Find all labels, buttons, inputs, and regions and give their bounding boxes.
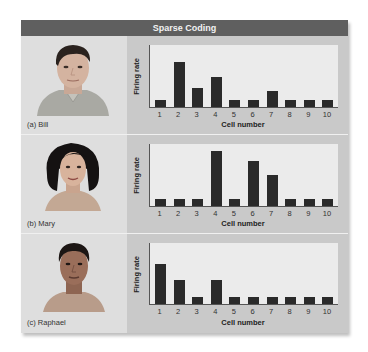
x-tick-label: 9 [300, 110, 316, 119]
bar-cell-8 [285, 100, 296, 107]
y-axis-label: Firing rate [132, 245, 141, 305]
x-tick-label: 8 [282, 209, 298, 218]
bar-cell-1 [155, 199, 166, 206]
caption-mary: (b) Mary [27, 219, 55, 228]
caption-bill: (a) Bill [27, 120, 48, 129]
y-axis-label: Firing rate [132, 47, 141, 107]
bar-plot-bill [149, 45, 338, 108]
bar-cell-10 [322, 100, 333, 107]
figure-title: Sparse Coding [21, 20, 348, 36]
bar-cell-6 [248, 297, 259, 304]
bar-cell-4 [211, 151, 222, 206]
bar-cell-1 [155, 264, 166, 304]
bar-cell-9 [304, 297, 315, 304]
face-panel-mary: (b) Mary [21, 135, 127, 233]
bar-plot-mary [149, 144, 338, 207]
face-bill-icon [33, 40, 113, 118]
bar-cell-7 [267, 91, 278, 107]
bar-cell-6 [248, 100, 259, 107]
x-tick-label: 4 [207, 209, 223, 218]
x-axis-label: Cell number [149, 219, 337, 228]
x-tick-label: 6 [245, 209, 261, 218]
bar-cell-7 [267, 297, 278, 304]
x-tick-label: 10 [319, 209, 335, 218]
x-tick-label: 1 [152, 110, 168, 119]
x-tick-label: 7 [263, 209, 279, 218]
x-tick-label: 10 [319, 307, 335, 316]
face-mary-icon [37, 139, 109, 213]
bar-cell-4 [211, 77, 222, 107]
face-raphael-icon [39, 236, 109, 314]
bar-cell-2 [174, 199, 185, 206]
bar-cell-4 [211, 280, 222, 304]
x-tick-label: 2 [170, 307, 186, 316]
x-tick-label: 5 [226, 110, 242, 119]
chart-panel-mary: Firing rate 12345678910 Cell number [127, 135, 348, 233]
bar-cell-8 [285, 297, 296, 304]
x-tick-label: 1 [152, 307, 168, 316]
bar-cell-7 [267, 175, 278, 206]
bar-cell-10 [322, 199, 333, 206]
x-tick-label: 4 [207, 110, 223, 119]
row-bill: (a) Bill Firing rate 12345678910 Cell nu… [21, 36, 348, 134]
x-tick-label: 8 [282, 307, 298, 316]
bar-cell-3 [192, 88, 203, 107]
x-tick-label: 7 [263, 110, 279, 119]
face-panel-bill: (a) Bill [21, 36, 127, 134]
x-tick-label: 8 [282, 110, 298, 119]
bar-cell-3 [192, 199, 203, 206]
bar-cell-2 [174, 62, 185, 107]
bar-cell-2 [174, 280, 185, 304]
x-tick-label: 4 [207, 307, 223, 316]
bar-cell-1 [155, 100, 166, 107]
x-axis-label: Cell number [149, 120, 337, 129]
bar-cell-8 [285, 199, 296, 206]
x-tick-label: 9 [300, 209, 316, 218]
y-axis-label: Firing rate [132, 146, 141, 206]
bar-cell-5 [229, 199, 240, 206]
sparse-coding-figure: Sparse Coding (a) Bill Firing rate 12345… [21, 20, 348, 333]
bar-cell-5 [229, 297, 240, 304]
x-tick-label: 6 [245, 110, 261, 119]
x-tick-label: 5 [226, 307, 242, 316]
bar-cell-3 [192, 297, 203, 304]
row-mary: (b) Mary Firing rate 12345678910 Cell nu… [21, 135, 348, 233]
bar-cell-5 [229, 100, 240, 107]
x-tick-label: 1 [152, 209, 168, 218]
x-tick-label: 2 [170, 110, 186, 119]
bar-cell-6 [248, 161, 259, 206]
x-axis-label: Cell number [149, 318, 337, 327]
bar-cell-9 [304, 100, 315, 107]
face-panel-raphael: (c) Raphael [21, 234, 127, 333]
x-tick-label: 9 [300, 307, 316, 316]
x-tick-label: 10 [319, 110, 335, 119]
x-tick-label: 6 [245, 307, 261, 316]
chart-panel-raphael: Firing rate 12345678910 Cell number [127, 234, 348, 333]
x-tick-label: 3 [189, 110, 205, 119]
x-tick-label: 3 [189, 307, 205, 316]
x-tick-label: 5 [226, 209, 242, 218]
caption-raphael: (c) Raphael [27, 318, 66, 327]
row-raphael: (c) Raphael Firing rate 12345678910 Cell… [21, 234, 348, 333]
chart-panel-bill: Firing rate 12345678910 Cell number [127, 36, 348, 134]
bar-cell-10 [322, 297, 333, 304]
x-tick-label: 2 [170, 209, 186, 218]
x-tick-label: 7 [263, 307, 279, 316]
bar-cell-9 [304, 199, 315, 206]
bar-plot-raphael [149, 243, 338, 305]
x-tick-label: 3 [189, 209, 205, 218]
